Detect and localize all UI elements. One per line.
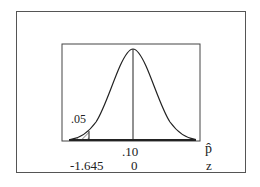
phat-axis-symbol: p̂ xyxy=(205,142,212,156)
z-zero-label: 0 xyxy=(131,159,138,172)
z-axis-symbol: z xyxy=(206,159,212,172)
tail-area-label: .05 xyxy=(71,113,86,125)
plot-box xyxy=(62,44,200,141)
z-critical-label: -1.645 xyxy=(70,159,104,172)
phat-tick-label: .10 xyxy=(122,145,138,158)
